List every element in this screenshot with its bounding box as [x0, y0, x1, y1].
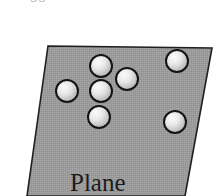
point-top-left-upper: [90, 55, 112, 77]
plane-label: Plane: [70, 168, 190, 196]
plane-figure: ss Plane: [0, 0, 217, 196]
point-top-right-inner: [116, 68, 138, 90]
point-bottom-right: [164, 111, 186, 133]
point-left: [56, 80, 78, 102]
point-bottom-center: [88, 106, 110, 128]
cropped-text-fragment-above: ss: [30, 0, 74, 5]
point-top-right: [166, 50, 188, 72]
plane-diagram-svg: [0, 0, 217, 196]
point-center: [90, 80, 112, 102]
